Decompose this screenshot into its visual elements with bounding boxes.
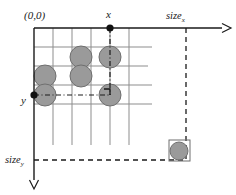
axes xyxy=(30,24,232,190)
x-marker-dot xyxy=(106,24,113,31)
origin-label: (0,0) xyxy=(24,9,45,22)
circle-d xyxy=(70,65,92,87)
x-axis-arrowhead xyxy=(222,24,231,33)
diagram-canvas: (0,0) x y sizex sizey xyxy=(0,0,236,195)
grid-circles xyxy=(34,46,121,106)
size-y-label: sizey xyxy=(5,154,25,168)
corner-cell-circle xyxy=(170,142,188,160)
labels: (0,0) x y sizex sizey xyxy=(5,8,186,168)
corner-cell xyxy=(169,140,190,161)
x-label: x xyxy=(105,8,111,20)
y-marker-dot xyxy=(30,91,37,98)
coordinate-grid-diagram: (0,0) x y sizex sizey xyxy=(0,0,236,195)
y-axis-arrowhead xyxy=(30,180,39,189)
size-x-label: sizex xyxy=(166,10,186,24)
y-label: y xyxy=(20,94,26,106)
